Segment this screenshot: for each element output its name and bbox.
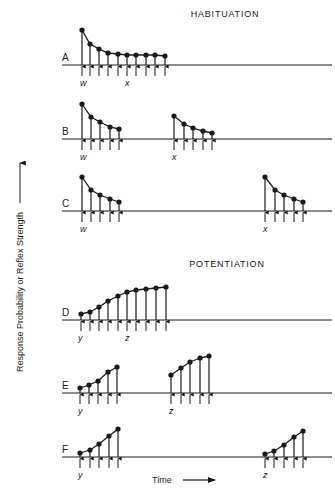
- response-dot: [116, 199, 121, 204]
- response-dot: [281, 442, 286, 447]
- stimulus-label: w: [80, 224, 87, 234]
- response-dot: [190, 125, 195, 130]
- row-label: B: [62, 126, 69, 137]
- response-dot: [79, 27, 84, 32]
- response-dot: [105, 298, 110, 303]
- habituation-title: HABITUATION: [191, 9, 260, 19]
- response-dot: [115, 51, 120, 56]
- response-series: [262, 428, 305, 468]
- x-axis-label-text: Time: [152, 475, 172, 485]
- response-dot: [272, 187, 277, 192]
- stimulus-label: z: [124, 333, 130, 343]
- response-dot: [86, 382, 91, 387]
- response-dot: [200, 128, 205, 133]
- response-dot: [262, 451, 267, 456]
- potentiation-title: POTENTIATION: [189, 259, 264, 269]
- response-dot: [96, 46, 101, 51]
- row-label: C: [62, 198, 69, 209]
- response-dot: [97, 192, 102, 197]
- response-series: [168, 353, 211, 404]
- response-dot: [171, 113, 176, 118]
- response-curve: [82, 30, 165, 56]
- response-dot: [133, 52, 138, 57]
- row-label: E: [62, 380, 69, 391]
- response-series: [262, 174, 305, 222]
- response-dot: [107, 196, 112, 201]
- response-dot: [78, 311, 83, 316]
- response-dot: [105, 369, 110, 374]
- response-dot: [262, 174, 267, 179]
- row-label: F: [62, 444, 68, 455]
- response-dot: [116, 126, 121, 131]
- response-dot: [291, 434, 296, 439]
- stimulus-label: z: [168, 406, 174, 416]
- response-dot: [87, 447, 92, 452]
- response-dot: [88, 114, 93, 119]
- response-series: [171, 113, 214, 150]
- row-label: A: [62, 52, 69, 63]
- response-dot: [96, 441, 101, 446]
- row-label: D: [62, 307, 69, 318]
- chart-rows: AwxBwxCwxDyzEyzFyz: [62, 27, 332, 480]
- response-dot: [115, 426, 120, 431]
- response-dot: [163, 284, 168, 289]
- response-dot: [79, 174, 84, 179]
- response-dot: [114, 364, 119, 369]
- response-series: [79, 174, 121, 222]
- response-dot: [206, 353, 211, 358]
- response-dot: [106, 433, 111, 438]
- row-f: Fyz: [62, 426, 332, 480]
- stimulus-label: w: [80, 152, 87, 162]
- response-curve: [81, 287, 166, 314]
- response-dot: [197, 355, 202, 360]
- response-series: [79, 27, 167, 76]
- response-dot: [124, 289, 129, 294]
- response-dot: [162, 53, 167, 58]
- row-b: Bwx: [62, 101, 332, 162]
- response-dot: [105, 50, 110, 55]
- response-series: [78, 284, 168, 331]
- response-dot: [187, 359, 192, 364]
- response-dot: [291, 196, 296, 201]
- response-dot: [115, 293, 120, 298]
- stimulus-label: z: [262, 470, 268, 480]
- stimulus-label: x: [171, 152, 177, 162]
- response-dot: [178, 365, 183, 370]
- response-dot: [97, 119, 102, 124]
- stimulus-label: w: [80, 78, 87, 88]
- stimulus-label: y: [77, 470, 83, 480]
- response-dot: [143, 52, 148, 57]
- response-dot: [181, 121, 186, 126]
- stimulus-label: y: [77, 406, 83, 416]
- response-dot: [152, 52, 157, 57]
- habituation-potentiation-figure: HABITUATION POTENTIATION Response Probab…: [0, 0, 335, 491]
- response-dot: [88, 187, 93, 192]
- response-dot: [143, 286, 148, 291]
- stimulus-label: x: [124, 78, 130, 88]
- response-dot: [107, 124, 112, 129]
- response-series: [79, 101, 121, 150]
- response-dot: [79, 101, 84, 106]
- stimulus-label: x: [262, 224, 268, 234]
- response-dot: [209, 130, 214, 135]
- response-dot: [87, 41, 92, 46]
- response-dot: [95, 378, 100, 383]
- response-dot: [77, 385, 82, 390]
- row-d: Dyz: [62, 284, 332, 343]
- response-dot: [124, 52, 129, 57]
- response-dot: [133, 287, 138, 292]
- response-series: [77, 364, 119, 404]
- response-dot: [168, 372, 173, 377]
- response-dot: [281, 192, 286, 197]
- response-dot: [153, 285, 158, 290]
- row-a: Awx: [62, 27, 332, 88]
- response-dot: [96, 304, 101, 309]
- row-e: Eyz: [62, 353, 332, 416]
- x-axis-label: Time: [152, 475, 215, 485]
- response-dot: [77, 450, 82, 455]
- response-dot: [87, 309, 92, 314]
- y-axis-label: Response Probability or Reflex Strength: [15, 163, 25, 372]
- response-dot: [300, 428, 305, 433]
- row-c: Cwx: [62, 174, 332, 234]
- response-dot: [271, 448, 276, 453]
